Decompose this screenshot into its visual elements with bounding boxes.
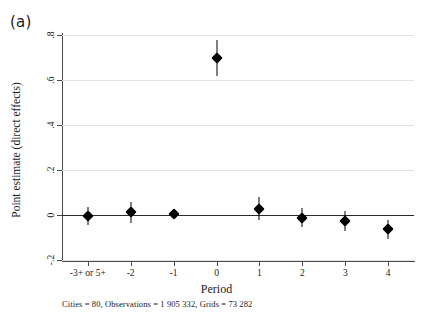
y-axis-tick-label: .6 [44, 73, 58, 87]
gridline [62, 125, 414, 126]
gridline [62, 35, 414, 36]
y-axis-tick-label: .8 [44, 28, 58, 42]
y-axis-tick-label-text: .4 [46, 121, 56, 128]
gridline [62, 260, 414, 261]
x-axis-tick [388, 261, 389, 266]
x-axis-tick [302, 261, 303, 266]
y-axis-title-text: Point estimate (direct effects) [10, 82, 22, 218]
y-axis-tick-label: .2 [44, 163, 58, 177]
x-axis-tick-label: -3+ or 5+ [70, 268, 106, 278]
x-axis-tick-label: 0 [214, 268, 219, 278]
x-axis-tick [131, 261, 132, 266]
plot-area [62, 35, 414, 260]
data-point-marker [125, 207, 136, 218]
y-axis-tick-label-text: -.2 [46, 255, 56, 265]
data-point-marker [211, 52, 222, 63]
y-axis-tick-label-text: 0 [46, 213, 56, 218]
figure-panel-a: (a) Point estimate (direct effects) .8.6… [0, 0, 433, 322]
zero-reference-line [62, 215, 414, 216]
y-axis-tick-label: 0 [44, 208, 58, 222]
data-point-marker [383, 223, 394, 234]
data-point-marker [340, 215, 351, 226]
x-axis-tick-label: 1 [257, 268, 262, 278]
y-axis-tick-label-text: .2 [46, 166, 56, 173]
data-point-marker [297, 212, 308, 223]
y-axis-title: Point estimate (direct effects) [8, 60, 24, 240]
x-axis-tick [88, 261, 89, 266]
x-axis-tick-label: 3 [343, 268, 348, 278]
figure-caption: Cities = 80, Observations = 1 905 332, G… [62, 299, 252, 309]
x-axis-tick-label: -2 [127, 268, 135, 278]
y-axis-tick-label-text: .8 [46, 31, 56, 38]
y-axis-tick-label: .4 [44, 118, 58, 132]
x-axis-tick [259, 261, 260, 266]
data-point-marker [82, 210, 93, 221]
panel-label: (a) [10, 13, 32, 31]
x-axis-tick [174, 261, 175, 266]
x-axis-title: Period [0, 282, 433, 297]
y-axis-tick-label: -.2 [44, 253, 58, 267]
y-axis-tick-label-text: .6 [46, 76, 56, 83]
x-axis-tick-label: -1 [170, 268, 178, 278]
x-axis-title-text: Period [201, 282, 232, 296]
x-axis-line [62, 261, 415, 262]
x-axis-tick-label: 4 [386, 268, 391, 278]
x-axis-tick-label: 2 [300, 268, 305, 278]
x-axis-tick [345, 261, 346, 266]
data-point-marker [254, 203, 265, 214]
gridline [62, 80, 414, 81]
x-axis-tick [217, 261, 218, 266]
data-point-marker [168, 208, 179, 219]
gridline [62, 170, 414, 171]
